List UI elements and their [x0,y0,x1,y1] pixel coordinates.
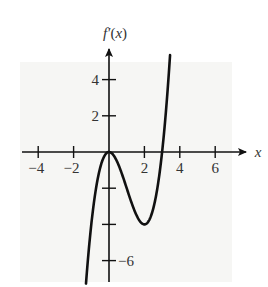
y-tick-label: 2 [92,108,100,124]
x-tick-label: −2 [64,160,80,176]
x-ticks: −4−2246 [28,146,219,176]
derivative-graph: −4−2246 42−6 f′(x) x [0,0,268,287]
x-tick-label: 2 [141,160,149,176]
y-ticks: 42−6 [92,72,135,269]
x-tick-label: 4 [176,160,184,176]
y-axis-label: f′(x) [103,25,127,42]
x-tick-label: 6 [211,160,219,176]
y-tick-label: −6 [118,253,134,269]
y-tick-label: 4 [92,72,100,88]
curve-f-prime [86,55,170,283]
x-tick-label: −4 [28,160,44,176]
x-axis-label: x [254,144,262,160]
